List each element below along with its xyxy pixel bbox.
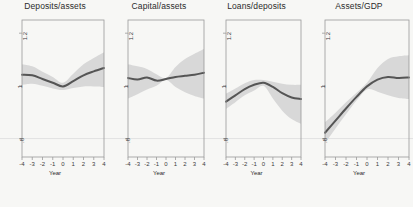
x-tick-label: 4 [99,161,109,167]
x-tick-label: -1 [152,161,162,167]
x-tick-label: 4 [404,161,413,167]
x-tick-label: 0 [58,161,68,167]
y-tick-label: .8 [322,138,328,143]
x-tick-label: -2 [142,161,152,167]
x-tick-label: 1 [171,161,181,167]
x-tick-label: 2 [79,161,89,167]
x-tick-label: 0 [362,161,372,167]
y-tick-label: 1 [123,85,129,88]
y-tick-label: 1.2 [226,32,232,40]
x-tick-label: -2 [38,161,48,167]
confidence-band [325,55,409,143]
figure-panel-grid: Deposits/assets1.21.8-4-3-2-101234YearCa… [0,0,413,207]
x-axis-title: Year [0,170,110,176]
confidence-band [226,80,301,124]
y-tick-label: .8 [223,138,229,143]
x-tick-label: -3 [27,161,37,167]
x-axis-title: Year [110,170,208,176]
x-tick-label: -4 [320,161,330,167]
confidence-band [128,49,204,99]
x-tick-label: 3 [89,161,99,167]
y-tick-label: .8 [19,138,25,143]
chart-panel-1: Deposits/assets1.21.8-4-3-2-101234Year [0,0,110,207]
x-tick-label: -1 [352,161,362,167]
x-tick-label: -1 [48,161,58,167]
x-tick-label: -2 [341,161,351,167]
x-tick-label: 1 [373,161,383,167]
x-tick-label: 0 [161,161,171,167]
y-tick-label: 1 [320,85,326,88]
x-tick-label: 2 [180,161,190,167]
y-tick-label: 1 [17,85,23,88]
x-tick-label: -4 [123,161,133,167]
chart-panel-4: Assets/GDP1.21.8-4-3-2-101234Year [305,0,413,207]
y-tick-label: 1.2 [128,32,134,40]
y-tick-label: .8 [125,138,131,143]
x-tick-label: -4 [17,161,27,167]
chart-panel-3: Loans/deposits1.21.8-4-3-2-101234Year [208,0,305,207]
x-axis-title: Year [208,170,305,176]
chart-panel-2: Capital/assets1.21.8-4-3-2-101234Year [110,0,208,207]
x-axis-title: Year [305,170,413,176]
y-tick-label: 1.2 [325,32,331,40]
x-tick-label: 2 [383,161,393,167]
x-tick-label: -3 [133,161,143,167]
y-tick-label: 1 [221,85,227,88]
x-tick-label: 3 [394,161,404,167]
y-tick-label: 1.2 [22,32,28,40]
x-tick-label: -3 [331,161,341,167]
x-tick-label: 3 [190,161,200,167]
x-tick-label: 1 [68,161,78,167]
